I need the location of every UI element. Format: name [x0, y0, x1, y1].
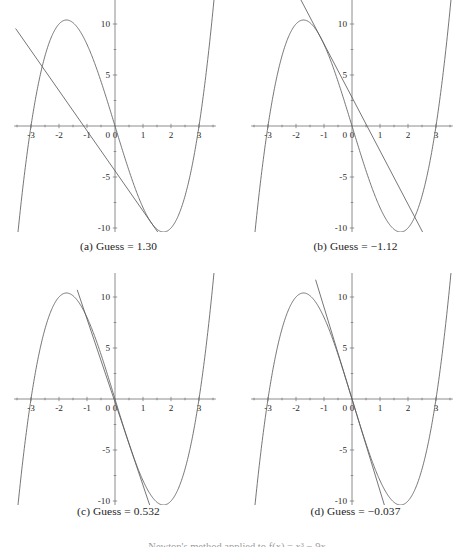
- y-tick-label: -10: [335, 496, 348, 505]
- x-tick-label: -3: [264, 403, 272, 413]
- y-tick-label: -5: [102, 445, 110, 455]
- x-tick-label: -1: [83, 403, 91, 413]
- y-tick-label: 5: [105, 70, 110, 80]
- x-tick-label: -3: [27, 403, 35, 413]
- panel-caption-a: (a) Guess = 1.30: [0, 240, 237, 252]
- panel-caption-c: (c) Guess = 0.532: [0, 505, 237, 517]
- x-tick-label: 2: [406, 130, 411, 140]
- panel-caption-b: (b) Guess = −1.12: [237, 240, 474, 252]
- figure-panel-b: -3-2-10123-10-55100 (b) Guess = −1.12: [237, 0, 474, 273]
- tangent-line: [16, 29, 188, 232]
- x-tick-label: 1: [378, 403, 383, 413]
- x-tick-label: 2: [406, 403, 411, 413]
- y-tick-label: -10: [98, 496, 111, 505]
- tangent-line: [77, 290, 161, 505]
- y-tick-label: 10: [101, 19, 111, 29]
- plot-svg-a: -3-2-10123-10-55100: [0, 0, 237, 232]
- origin-label: 0: [105, 403, 110, 413]
- y-tick-label: 5: [105, 343, 110, 353]
- x-tick-label: -2: [292, 130, 300, 140]
- x-tick-label: -3: [264, 130, 272, 140]
- x-tick-label: -3: [27, 130, 35, 140]
- plot-c: -3-2-10123-10-55100: [0, 273, 237, 505]
- plot-svg-c: -3-2-10123-10-55100: [0, 273, 237, 505]
- figure-bottom-caption: Newton's method applied to f(x) = x³ − 9…: [0, 541, 474, 547]
- plot-d: -3-2-10123-10-55100: [237, 273, 474, 505]
- x-tick-label: -1: [320, 403, 328, 413]
- x-tick-label: -2: [292, 403, 300, 413]
- y-tick-label: 10: [338, 19, 348, 29]
- plot-svg-d: -3-2-10123-10-55100: [237, 273, 474, 505]
- tangent-line: [300, 0, 434, 232]
- plot-b: -3-2-10123-10-55100: [237, 0, 474, 232]
- x-tick-label: -1: [320, 130, 328, 140]
- plot-svg-b: -3-2-10123-10-55100: [237, 0, 474, 232]
- figure-panel-a: -3-2-10123-10-55100 (a) Guess = 1.30: [0, 0, 237, 273]
- y-tick-label: 10: [101, 292, 111, 302]
- origin-label: 0: [342, 403, 347, 413]
- plot-a: -3-2-10123-10-55100: [0, 0, 237, 232]
- x-tick-label: 1: [141, 130, 146, 140]
- x-tick-label: -2: [55, 130, 63, 140]
- y-tick-label: 10: [338, 292, 348, 302]
- y-tick-label: 5: [342, 70, 347, 80]
- newton-method-figure: -3-2-10123-10-55100 (a) Guess = 1.30 -3-…: [0, 0, 474, 547]
- y-tick-label: -5: [339, 172, 347, 182]
- origin-label: 0: [342, 130, 347, 140]
- y-tick-label: -5: [102, 172, 110, 182]
- x-tick-label: 1: [141, 403, 146, 413]
- origin-label: 0: [105, 130, 110, 140]
- y-tick-label: -10: [335, 223, 348, 232]
- x-tick-label: -2: [55, 403, 63, 413]
- panel-caption-d: (d) Guess = −0.037: [237, 505, 474, 517]
- x-tick-label: 2: [169, 130, 174, 140]
- x-tick-label: 2: [169, 403, 174, 413]
- figure-panel-c: -3-2-10123-10-55100 (c) Guess = 0.532: [0, 273, 237, 547]
- y-tick-label: -10: [98, 223, 111, 232]
- y-tick-label: -5: [339, 445, 347, 455]
- x-tick-label: 1: [378, 130, 383, 140]
- y-tick-label: 5: [342, 343, 347, 353]
- figure-panel-d: -3-2-10123-10-55100 (d) Guess = −0.037: [237, 273, 474, 547]
